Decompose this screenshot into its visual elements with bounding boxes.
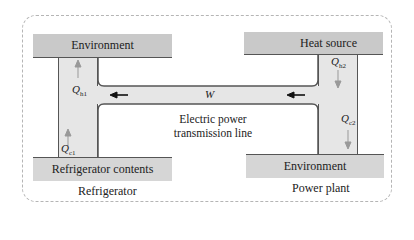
q-h2-label: Qh2 <box>331 55 346 70</box>
q-h2-arrow-icon <box>335 70 341 88</box>
reservoir-label: Refrigerator contents <box>52 162 154 177</box>
reservoir-label: Heat source <box>300 36 357 51</box>
refrigerator-caption: Refrigerator <box>78 184 137 199</box>
reservoir-label: Environment <box>284 159 347 174</box>
q-c1-label: Qc1 <box>61 142 76 157</box>
power-plant-hot-reservoir: Heat source <box>244 32 383 55</box>
refrigerator-hot-reservoir: Environment <box>33 34 172 58</box>
work-label: W <box>205 88 214 100</box>
power-plant-caption: Power plant <box>292 181 350 196</box>
q-c2-arrow-icon <box>345 130 351 149</box>
reservoir-label: Environment <box>71 38 134 53</box>
refrigerator-cold-reservoir: Refrigerator contents <box>33 157 172 181</box>
power-plant-cold-reservoir: Environment <box>246 154 384 178</box>
work-arrow-left-icon <box>110 92 128 98</box>
transmission-line-label: Electric power transmission line <box>168 112 258 140</box>
q-c2-label: Qc2 <box>341 112 356 127</box>
q-h1-arrow-icon <box>75 60 81 78</box>
q-h1-label: Qh1 <box>72 83 87 98</box>
work-arrow-right-icon <box>287 92 305 98</box>
